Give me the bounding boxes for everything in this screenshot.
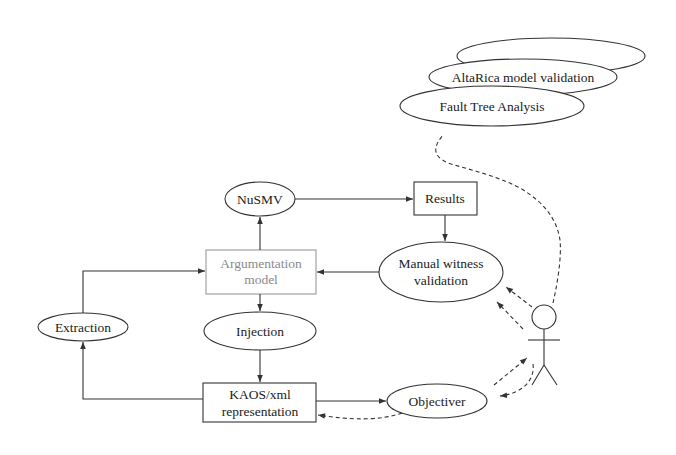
node-results: Results: [414, 182, 477, 215]
node-nusmv: NuSMV: [225, 182, 295, 216]
workflow-diagram: AltaRica model validation Fault Tree Ana…: [0, 0, 676, 455]
argumentation-label-line1: Argumentation: [220, 256, 302, 271]
node-argumentation-model: Argumentation model: [206, 250, 316, 294]
altarica-label: AltaRica model validation: [452, 70, 595, 85]
node-extraction: Extraction: [38, 313, 128, 341]
node-objectiver: Objectiver: [387, 384, 487, 418]
fault-tree-label: Fault Tree Analysis: [439, 99, 544, 114]
edge-actor-to-manual-witness-2: [497, 302, 523, 329]
edge-objectiver-to-actor: [494, 358, 527, 385]
edge-actor-to-objectiver: [500, 364, 533, 396]
node-fault-tree-analysis: Fault Tree Analysis: [400, 86, 584, 126]
edge-kaos-to-extraction: [83, 342, 203, 399]
edge-extraction-to-argumentation: [83, 271, 205, 313]
node-injection: Injection: [204, 312, 316, 350]
kaos-label-line1: KAOS/xml: [229, 387, 291, 402]
edge-objectiver-to-kaos: [318, 413, 402, 419]
extraction-label: Extraction: [55, 320, 111, 335]
objectiver-label: Objectiver: [409, 394, 466, 409]
nusmv-label: NuSMV: [237, 192, 283, 207]
edge-actor-to-manual-witness-1: [506, 287, 532, 307]
injection-label: Injection: [236, 324, 284, 339]
manual-witness-label-line1: Manual witness: [398, 256, 483, 271]
manual-witness-label-line2: validation: [414, 273, 468, 288]
kaos-label-line2: representation: [222, 404, 299, 419]
argumentation-label-line2: model: [244, 272, 278, 287]
node-manual-witness-validation: Manual witness validation: [379, 242, 503, 302]
node-kaos-xml-representation: KAOS/xml representation: [203, 383, 316, 422]
results-label: Results: [425, 191, 465, 206]
